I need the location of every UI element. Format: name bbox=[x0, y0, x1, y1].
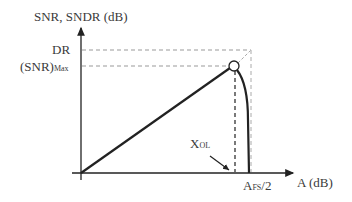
snr-drop-curve bbox=[237, 70, 249, 173]
snr-max-sub: Max bbox=[54, 64, 69, 73]
snr-max-label: (SNR)Max bbox=[20, 59, 69, 75]
dr-label: DR bbox=[52, 42, 70, 58]
afs-label: AFS/2 bbox=[243, 178, 271, 194]
snr-line bbox=[81, 68, 230, 173]
snr-max-text: (SNR) bbox=[20, 59, 54, 74]
afs-text: A bbox=[243, 178, 252, 193]
afs-suffix: /2 bbox=[261, 178, 271, 193]
afs-sub: FS bbox=[252, 183, 261, 192]
xol-arrow bbox=[210, 156, 229, 170]
y-axis-label: SNR, SNDR (dB) bbox=[34, 9, 128, 25]
xol-label: XOL bbox=[190, 136, 210, 152]
x-axis-label: A (dB) bbox=[297, 175, 333, 191]
xol-text: X bbox=[190, 136, 199, 151]
xol-sub: OL bbox=[199, 141, 210, 150]
snrmax-point bbox=[229, 61, 239, 71]
diag-guide bbox=[238, 51, 250, 63]
snr-diagram bbox=[0, 0, 352, 202]
